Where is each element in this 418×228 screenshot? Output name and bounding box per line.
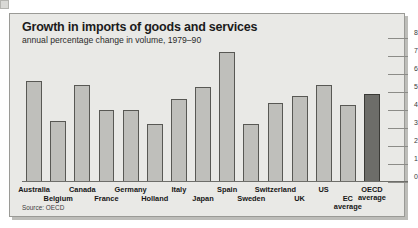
y-axis-tick-label: 7	[410, 47, 418, 54]
bar-slot	[312, 38, 336, 182]
gridline-8	[388, 38, 408, 39]
y-axis-tick-label: 8	[410, 29, 418, 36]
bar-canada[interactable]	[74, 85, 90, 182]
category-label-spain: Spain	[217, 186, 237, 194]
bar-australia[interactable]	[26, 81, 42, 182]
bar-spain[interactable]	[219, 52, 235, 182]
bar-sweden[interactable]	[243, 124, 259, 182]
gridline-5	[388, 92, 408, 93]
plot-area: 012345678	[22, 38, 384, 182]
y-axis-tick-label: 5	[410, 83, 418, 90]
gridline-7	[388, 56, 408, 57]
category-label-italy: Italy	[171, 186, 186, 194]
bar-slot	[94, 38, 118, 182]
chart-panel: Growth in imports of goods and services …	[9, 13, 405, 217]
bar-slot	[263, 38, 287, 182]
bar-series	[22, 38, 384, 182]
gridline-1	[388, 164, 408, 165]
bar-slot	[22, 38, 46, 182]
y-axis-tick-label: 3	[410, 119, 418, 126]
source-note: Source: OECD	[22, 204, 64, 211]
category-labels: AustraliaBelgiumCanadaFranceGermanyHolla…	[22, 186, 384, 212]
bar-switzerland[interactable]	[268, 103, 284, 182]
chart-title: Growth in imports of goods and services	[22, 20, 257, 34]
bar-germany[interactable]	[123, 110, 139, 182]
bar-holland[interactable]	[147, 124, 163, 182]
bar-slot	[143, 38, 167, 182]
bar-slot	[360, 38, 384, 182]
category-label-oecd-average: OECDaverage	[358, 186, 386, 203]
bar-slot	[119, 38, 143, 182]
bar-slot	[46, 38, 70, 182]
y-axis-tick-label: 6	[410, 65, 418, 72]
gridline-3	[388, 128, 408, 129]
y-axis-tick-label: 4	[410, 101, 418, 108]
gridline-4	[388, 110, 408, 111]
category-label-canada: Canada	[69, 186, 96, 194]
category-label-uk: UK	[294, 195, 305, 203]
category-label-switzerland: Switzerland	[255, 186, 296, 194]
category-label-france: France	[94, 195, 118, 203]
bar-oecd-average[interactable]	[364, 94, 380, 182]
bar-slot	[167, 38, 191, 182]
y-axis-tick-label: 1	[410, 155, 418, 162]
gridline-2	[388, 146, 408, 147]
bar-slot	[191, 38, 215, 182]
bar-slot	[215, 38, 239, 182]
y-axis-tick-label: 0	[410, 173, 418, 180]
bar-japan[interactable]	[195, 87, 211, 182]
category-label-japan: Japan	[192, 195, 213, 203]
category-label-sweden: Sweden	[237, 195, 265, 203]
bar-slot	[239, 38, 263, 182]
gridline-0	[388, 182, 408, 183]
y-axis-tick-label: 2	[410, 137, 418, 144]
bar-belgium[interactable]	[50, 121, 66, 182]
bar-slot	[288, 38, 312, 182]
bar-slot	[336, 38, 360, 182]
gridline-6	[388, 74, 408, 75]
bar-slot	[70, 38, 94, 182]
category-label-belgium: Belgium	[44, 195, 73, 203]
bar-france[interactable]	[99, 110, 115, 182]
axis-baseline	[22, 181, 408, 182]
page-corner-marker	[0, 0, 9, 9]
bar-italy[interactable]	[171, 99, 187, 182]
category-label-us: US	[319, 186, 329, 194]
category-label-holland: Holland	[141, 195, 168, 203]
bar-uk[interactable]	[292, 96, 308, 182]
bar-us[interactable]	[316, 85, 332, 182]
bar-ec-average[interactable]	[340, 105, 356, 182]
